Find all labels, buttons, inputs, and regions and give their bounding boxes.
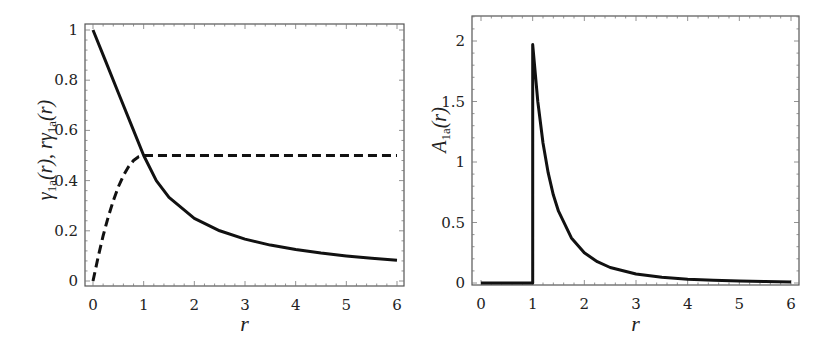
left-panel: 012345600.20.40.60.81rγ1a(r), rγ1a(r) xyxy=(34,21,404,336)
series-line-dashed xyxy=(93,156,397,282)
y-tick-label: 1 xyxy=(455,153,465,171)
x-tick-label: 2 xyxy=(190,296,200,314)
y-tick-label: 0 xyxy=(455,274,465,292)
x-tick-label: 6 xyxy=(392,296,402,314)
x-tick-label: 1 xyxy=(528,295,538,313)
y-tick-label: 0.5 xyxy=(441,214,465,232)
x-tick-label: 2 xyxy=(580,295,590,313)
x-tick-label: 5 xyxy=(735,295,745,313)
y-tick-label: 0.8 xyxy=(54,71,78,89)
y-tick-label: 0.2 xyxy=(54,222,78,240)
y-tick-label: 1 xyxy=(68,21,78,39)
x-tick-label: 4 xyxy=(291,296,301,314)
figure: 012345600.20.40.60.81rγ1a(r), rγ1a(r) 01… xyxy=(0,0,824,345)
y-axis-label: γ1a(r), rγ1a(r) xyxy=(34,99,59,200)
x-tick-label: 4 xyxy=(683,295,693,313)
x-tick-label: 5 xyxy=(342,296,352,314)
y-axis-label: A1a(r) xyxy=(428,107,453,155)
y-tick-label: 2 xyxy=(455,32,465,50)
x-axis-label: r xyxy=(631,311,640,336)
x-tick-label: 6 xyxy=(786,295,796,313)
x-tick-label: 0 xyxy=(88,296,98,314)
right-panel: 012345600.511.52rA1a(r) xyxy=(428,16,799,336)
series-line-solid xyxy=(481,45,791,283)
y-tick-label: 0 xyxy=(68,272,78,290)
x-tick-label: 1 xyxy=(139,296,149,314)
x-tick-label: 0 xyxy=(476,295,486,313)
series-line-solid xyxy=(93,30,397,260)
plot-frame xyxy=(472,16,799,285)
x-axis-label: r xyxy=(240,311,249,336)
